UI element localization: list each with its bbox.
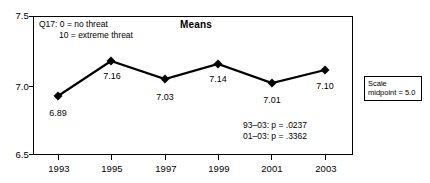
data-label-2001: 7.01 — [255, 95, 289, 105]
x-axis-label-1999: 1999 — [199, 163, 239, 174]
data-point-marker-1999 — [214, 60, 222, 68]
question-note-line-1: Q17: 0 = no threat — [39, 19, 133, 30]
scale-midpoint-line-2: midpoint = 5.0 — [368, 88, 418, 97]
data-point-marker-1997 — [161, 75, 169, 83]
x-axis-label-2003: 2003 — [306, 163, 346, 174]
y-axis-label-6-5: 6.5 — [3, 150, 29, 160]
data-label-1993: 6.89 — [41, 108, 75, 118]
y-axis-label-7-5: 7.5 — [3, 11, 29, 21]
data-point-marker-2003 — [321, 66, 329, 74]
data-label-1997: 7.03 — [148, 92, 182, 102]
y-axis-label-7-0: 7.0 — [3, 82, 29, 92]
question-note-line-2: 10 = extreme threat — [39, 30, 133, 41]
x-axis-ticks — [59, 155, 326, 160]
p-value-annotations: 93–03: p = .0237 01–03: p = .3362 — [243, 120, 307, 142]
figure-container: 7.5 7.0 6.5 1993 1995 1997 1999 2001 200… — [0, 0, 430, 183]
x-axis-label-1995: 1995 — [92, 163, 132, 174]
scale-midpoint-line-1: Scale — [368, 79, 418, 88]
x-axis-label-2001: 2001 — [252, 163, 292, 174]
data-label-1995: 7.16 — [95, 71, 129, 81]
data-label-1999: 7.14 — [201, 74, 235, 84]
scale-midpoint-box: Scale midpoint = 5.0 — [364, 76, 422, 101]
x-axis-label-1997: 1997 — [146, 163, 186, 174]
p-value-line-01-03: 01–03: p = .3362 — [243, 131, 307, 142]
x-axis-label-1993: 1993 — [39, 163, 79, 174]
chart-title: Means — [160, 19, 232, 30]
y-axis-ticks — [29, 17, 33, 155]
data-label-2003: 7.10 — [308, 81, 342, 91]
question-scale-note: Q17: 0 = no threat 10 = extreme threat — [39, 19, 133, 41]
p-value-line-93-03: 93–03: p = .0237 — [243, 120, 307, 131]
data-point-marker-2001 — [268, 79, 276, 87]
